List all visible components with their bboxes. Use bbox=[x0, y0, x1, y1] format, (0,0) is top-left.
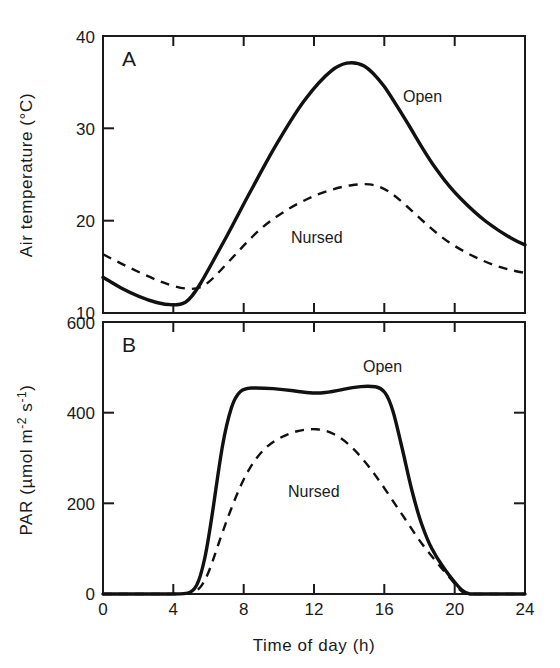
x-axis-tick-labels: 0 4 8 12 16 20 24 bbox=[98, 600, 534, 619]
panel-a-x-ticks bbox=[173, 36, 454, 313]
xtick-20: 20 bbox=[445, 600, 464, 619]
panel-b-ytick-200: 200 bbox=[67, 495, 95, 514]
xtick-8: 8 bbox=[239, 600, 248, 619]
figure-svg: 40 30 20 10 A Air temperature (°C) Open … bbox=[0, 0, 560, 668]
xtick-4: 4 bbox=[169, 600, 178, 619]
x-axis-title: Time of day (h) bbox=[253, 636, 376, 655]
panel-b-frame bbox=[103, 322, 525, 594]
panel-a-open-label: Open bbox=[403, 88, 442, 105]
xtick-16: 16 bbox=[375, 600, 394, 619]
xtick-0: 0 bbox=[98, 600, 107, 619]
panel-b-nursed-label: Nursed bbox=[288, 483, 340, 500]
panel-b-ytick-600: 600 bbox=[67, 314, 95, 333]
svg-text:PAR (µmol m-2 s-1): PAR (µmol m-2 s-1) bbox=[15, 384, 36, 535]
panel-b-y-axis-title-sup2: -1 bbox=[15, 391, 29, 403]
panel-a-nursed-label: Nursed bbox=[291, 229, 343, 246]
panel-a-frame bbox=[103, 36, 525, 313]
panel-a-ytick-20: 20 bbox=[76, 212, 95, 231]
panel-b-ytick-0: 0 bbox=[86, 585, 95, 604]
panel-a-letter: A bbox=[122, 47, 136, 70]
panel-b-nursed-curve bbox=[103, 429, 525, 594]
xtick-12: 12 bbox=[305, 600, 324, 619]
panel-b-y-axis-title-main: PAR (µmol m bbox=[17, 429, 36, 536]
panel-b-y-axis-title-sup1: -2 bbox=[15, 417, 29, 429]
panel-a-ytick-40: 40 bbox=[76, 28, 95, 47]
figure-container: 40 30 20 10 A Air temperature (°C) Open … bbox=[0, 0, 560, 668]
panel-b-y-axis-title-mid: s bbox=[17, 403, 36, 417]
panel-b-y-axis-title: PAR (µmol m-2 s-1) bbox=[15, 384, 36, 535]
xtick-24: 24 bbox=[516, 600, 535, 619]
panel-a-y-ticks bbox=[103, 128, 114, 220]
panel-b-letter: B bbox=[122, 333, 136, 356]
panel-b-ytick-400: 400 bbox=[67, 404, 95, 423]
panel-a-ytick-30: 30 bbox=[76, 120, 95, 139]
panel-b-y-axis-title-end: ) bbox=[17, 384, 36, 390]
panel-b-open-label: Open bbox=[363, 358, 402, 375]
panel-b: 600 400 200 0 B PAR (µmol m-2 s-1) Open … bbox=[15, 314, 525, 604]
panel-a-y-axis-title: Air temperature (°C) bbox=[17, 93, 36, 257]
panel-a-open-curve bbox=[103, 63, 525, 305]
panel-a: 40 30 20 10 A Air temperature (°C) Open … bbox=[17, 28, 525, 323]
